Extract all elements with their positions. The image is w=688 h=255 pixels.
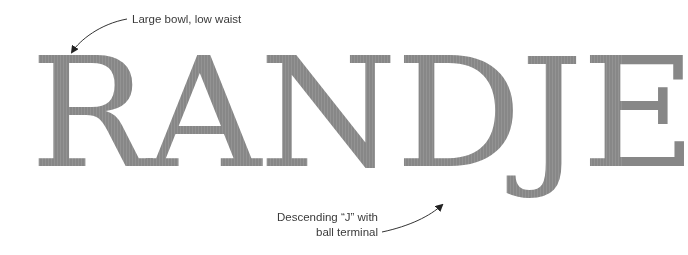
annotation-bowl: Large bowl, low waist	[132, 12, 241, 27]
annotation-j-line1: Descending “J” with	[277, 210, 378, 225]
arrow-j-icon	[382, 205, 442, 232]
annotation-j-line2: ball terminal	[277, 225, 378, 240]
arrow-bowl-icon	[72, 19, 127, 52]
annotation-j-terminal: Descending “J” with ball terminal	[277, 210, 378, 240]
annotation-bowl-text: Large bowl, low waist	[132, 12, 241, 27]
